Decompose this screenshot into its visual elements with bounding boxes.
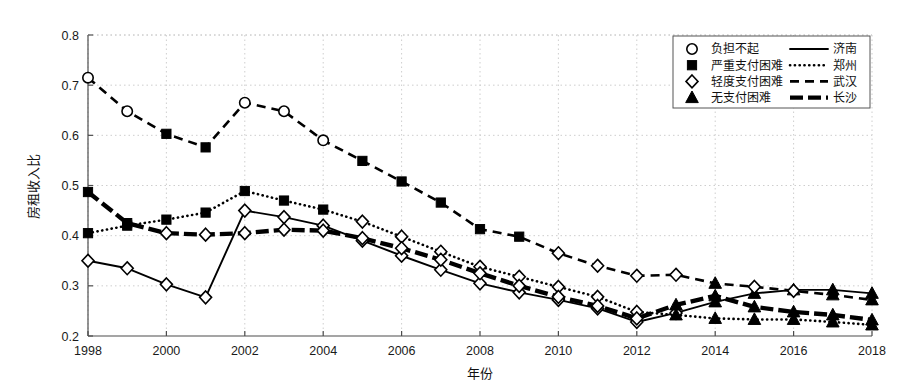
marker-square-filled: [240, 186, 249, 195]
marker-square-filled: [162, 129, 171, 138]
marker-square-filled: [162, 215, 171, 224]
marker-square-filled: [201, 143, 210, 152]
legend-city-label: 济南: [833, 41, 857, 56]
marker-square-filled: [279, 196, 288, 205]
x-tick-label: 2016: [780, 344, 808, 358]
legend-marker-label: 轻度支付困难: [711, 74, 783, 89]
x-tick-label: 2004: [309, 344, 337, 358]
x-tick-label: 2010: [544, 344, 572, 358]
marker-square-filled: [358, 156, 367, 165]
legend[interactable]: 负担不起济南严重支付困难郑州轻度支付困难武汉无支付困难长沙: [673, 36, 870, 108]
rent-income-ratio-line-chart: 0.20.30.40.50.60.70.8 199820002002200420…: [0, 0, 907, 388]
marker-circle-open: [318, 135, 328, 145]
legend-city-label: 郑州: [833, 58, 857, 73]
legend-city-label: 长沙: [833, 91, 857, 105]
marker-square-filled: [201, 208, 210, 217]
marker-square-filled: [83, 229, 92, 238]
y-tick-label: 0.3: [62, 279, 79, 293]
legend-marker-label: 负担不起: [711, 42, 759, 56]
x-tick-label: 2014: [701, 344, 729, 358]
marker-square-filled: [319, 205, 328, 214]
marker-circle-open: [687, 44, 697, 54]
y-tick-label: 0.4: [62, 229, 79, 243]
marker-square-filled: [687, 61, 696, 70]
marker-circle-open: [122, 106, 132, 116]
marker-circle-open: [83, 72, 93, 82]
marker-square-filled: [515, 232, 524, 241]
y-tick-label: 0.6: [62, 129, 79, 143]
marker-square-filled: [123, 219, 132, 228]
chart-figure: 0.20.30.40.50.60.70.8 199820002002200420…: [0, 0, 907, 388]
marker-circle-open: [240, 98, 250, 108]
x-tick-label: 2018: [858, 344, 886, 358]
marker-circle-open: [279, 106, 289, 116]
marker-square-filled: [436, 198, 445, 207]
legend-marker-label: 严重支付困难: [711, 59, 783, 73]
marker-square-filled: [397, 177, 406, 186]
y-tick-label: 0.2: [62, 330, 79, 344]
legend-city-label: 武汉: [833, 75, 857, 89]
y-tick-label: 0.5: [62, 179, 79, 193]
x-tick-label: 2008: [466, 344, 494, 358]
x-tick-label: 2012: [623, 344, 651, 358]
marker-square-filled: [83, 187, 92, 196]
legend-marker-label: 无支付困难: [711, 91, 771, 105]
x-tick-label: 2002: [231, 344, 259, 358]
y-tick-label: 0.8: [62, 29, 79, 43]
x-tick-label: 1998: [74, 344, 102, 358]
x-tick-label: 2006: [388, 344, 416, 358]
y-axis-title: 房租收入比: [26, 154, 41, 219]
x-axis-title: 年份: [467, 366, 493, 381]
legend-marker-负担不起[interactable]: [687, 44, 697, 54]
legend-marker-严重支付困难[interactable]: [687, 61, 696, 70]
x-tick-label: 2000: [152, 344, 180, 358]
marker-square-filled: [475, 225, 484, 234]
y-tick-label: 0.7: [62, 79, 79, 93]
